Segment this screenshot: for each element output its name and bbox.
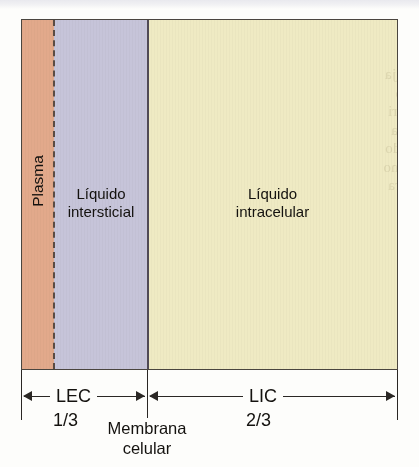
label-interstitial-fluid: Líquido intersticial [54, 185, 148, 221]
dimension-label-lec: LEC [50, 386, 97, 406]
page-bleedthrough-text: sem tirar o modo o eritrócito se retrai … [298, 28, 398, 195]
arrow-head-lec-right [136, 391, 145, 401]
dimension-annotations: LEC 1/3 LIC 2/3 Membrana celular [0, 370, 419, 467]
figure-root: sem tirar o modo o eritrócito se retrai … [0, 0, 419, 467]
dimension-label-lic: LIC [243, 386, 283, 406]
label-cell-membrane: Membrana celular [86, 418, 208, 458]
tick-left-edge [21, 370, 22, 420]
label-plasma: Plasma [29, 147, 47, 215]
tick-right-edge [397, 370, 398, 420]
scan-top-band [0, 0, 419, 9]
dimension-fraction-lec: 1/3 [53, 410, 78, 430]
fluid-compartments-diagram: sem tirar o modo o eritrócito se retrai … [21, 19, 398, 370]
dimension-fraction-lic: 2/3 [246, 410, 271, 430]
label-intracellular-fluid: Líquido intracelular [148, 185, 397, 221]
arrow-head-lic-left [149, 391, 158, 401]
tick-cell-membrane [147, 370, 148, 418]
arrow-head-lic-right [386, 391, 395, 401]
arrow-head-lec-left [23, 391, 32, 401]
